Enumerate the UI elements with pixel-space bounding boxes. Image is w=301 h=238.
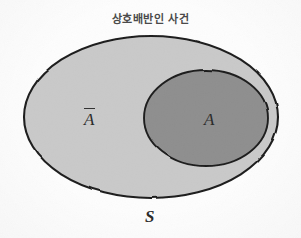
label-event-a: A — [204, 111, 214, 128]
paper-grain-overlay — [0, 0, 301, 238]
label-sample-space-s: S — [145, 208, 154, 225]
label-a-complement-text: A — [84, 108, 94, 128]
venn-diagram-figure: 상호배반인 사건 A A S — [0, 0, 301, 238]
label-a-complement: A — [84, 108, 94, 128]
figure-title: 상호배반인 사건 — [0, 10, 301, 26]
venn-diagram-canvas — [0, 0, 301, 238]
